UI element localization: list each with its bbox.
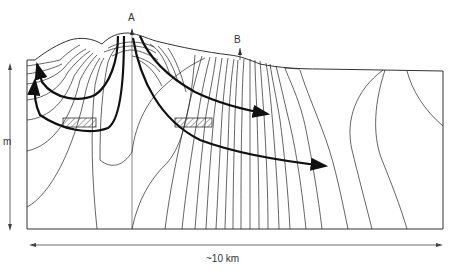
- horizontal-axis: [29, 243, 443, 247]
- hatched-zone-right: [175, 118, 212, 127]
- horizontal-axis-label: ~10 km: [206, 254, 239, 264]
- point-a-label: A: [128, 13, 135, 23]
- flow-arrows: [35, 36, 326, 166]
- vertical-axis: [8, 63, 12, 231]
- flow-net-svg: [0, 0, 460, 277]
- point-b-label: B: [234, 35, 241, 45]
- hatched-zone-left: [63, 118, 96, 127]
- well-a-marker-icon: [130, 28, 134, 35]
- vertical-axis-label: m: [3, 137, 11, 147]
- well-b-marker-icon: [238, 48, 242, 55]
- flow-net-diagram: A B m ~10 km: [0, 0, 460, 277]
